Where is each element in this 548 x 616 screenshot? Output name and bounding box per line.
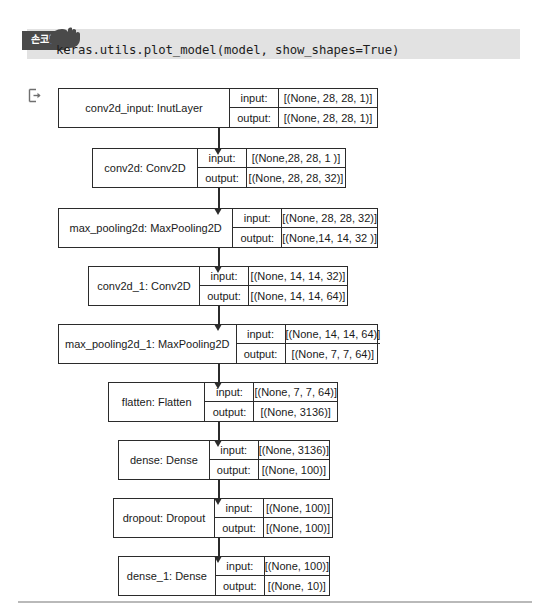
layer-io-row: output:[(None, 10)]	[216, 576, 329, 595]
layer-io-row: input:[(None, 100)]	[216, 557, 329, 576]
connector-line	[218, 188, 220, 208]
layer-io-row: output:[(None, 14, 14, 64)]	[200, 286, 347, 305]
connector-arrowhead	[214, 208, 222, 215]
layer-io-row: input:[(None, 7, 7, 64)]	[205, 383, 337, 402]
model-architecture-diagram: conv2d_input: InutLayerinput:[(None, 28,…	[0, 0, 548, 616]
layer-io-key: output:	[216, 576, 264, 595]
layer-io-shape: [(None, 10)]	[264, 576, 329, 595]
layer-io-shape: [(None, 3136)]	[253, 402, 337, 421]
layer-io-row: output:[(None,14, 14, 32 )]	[233, 228, 377, 247]
layer-node-name: conv2d_1: Conv2D	[89, 267, 199, 305]
layer-io-shape: [(None, 100)]	[263, 499, 332, 517]
layer-io-key: input:	[233, 209, 281, 227]
layer-io-shape: [(None, 28, 28, 32)]	[281, 209, 377, 227]
connector-arrowhead	[214, 324, 222, 331]
layer-io-table: input:[(None, 28, 28, 1)]output:[(None, …	[229, 89, 377, 127]
layer-node-name: conv2d: Conv2D	[93, 149, 197, 187]
layer-io-table: input:[(None, 7, 7, 64)]output:[(None, 3…	[204, 383, 337, 421]
layer-node-name: dropout: Dropout	[114, 499, 214, 537]
connector-arrowhead	[214, 266, 222, 273]
layer-io-shape: [(None,28, 28, 1 )]	[246, 149, 345, 167]
layer-io-shape: [(None, 14, 14, 64)]	[248, 286, 347, 305]
layer-io-key: input:	[230, 89, 278, 107]
connector-arrowhead	[214, 382, 222, 389]
layer-io-row: input:[(None, 14, 14, 64)]	[237, 325, 381, 344]
layer-io-row: output:[(None, 28, 28, 32)]	[198, 168, 345, 187]
layer-node-name: conv2d_input: InutLayer	[59, 89, 229, 127]
layer-io-table: input:[(None, 100)]output:[(None, 10)]	[215, 557, 329, 595]
layer-io-shape: [(None, 3136)]	[258, 441, 329, 459]
layer-io-key: output:	[200, 286, 248, 305]
layer-io-shape: [(None, 100)]	[264, 557, 329, 575]
layer-io-table: input:[(None, 3136)]output:[(None, 100)]	[209, 441, 329, 479]
layer-io-shape: [(None, 100)]	[263, 518, 332, 537]
connector-line	[218, 128, 220, 148]
layer-node-name: dense_1: Dense	[119, 557, 215, 595]
layer-io-table: input:[(None, 28, 28, 32)]output:[(None,…	[232, 209, 377, 247]
layer-io-key: output:	[198, 168, 246, 187]
layer-io-key: output:	[230, 108, 278, 127]
connector-line	[218, 538, 220, 556]
layer-io-row: input:[(None, 28, 28, 32)]	[233, 209, 377, 228]
layer-io-row: output:[(None, 7, 7, 64)]	[237, 344, 381, 363]
layer-io-key: input:	[216, 557, 264, 575]
layer-io-shape: [(None, 28, 28, 1)]	[278, 108, 377, 127]
layer-io-shape: [(None, 100)]	[258, 460, 329, 479]
connector-line	[218, 364, 220, 382]
layer-io-key: input:	[237, 325, 285, 343]
layer-io-key: output:	[233, 228, 281, 247]
connector-arrowhead	[214, 440, 222, 447]
layer-node: dense_1: Denseinput:[(None, 100)]output:…	[118, 556, 330, 596]
layer-io-key: output:	[215, 518, 263, 537]
connector-arrowhead	[214, 556, 222, 563]
layer-node-name: max_pooling2d_1: MaxPooling2D	[59, 325, 236, 363]
layer-io-row: input:[(None, 28, 28, 1)]	[230, 89, 377, 108]
layer-node: flatten: Flatteninput:[(None, 7, 7, 64)]…	[108, 382, 338, 422]
layer-io-row: output:[(None, 100)]	[215, 518, 332, 537]
connector-line	[218, 480, 220, 498]
layer-io-key: output:	[237, 344, 285, 363]
layer-node-name: dense: Dense	[119, 441, 209, 479]
connector-line	[218, 306, 220, 324]
layer-io-key: output:	[205, 402, 253, 421]
connector-line	[218, 248, 220, 266]
layer-io-table: input:[(None, 14, 14, 64)]output:[(None,…	[236, 325, 381, 363]
layer-io-table: input:[(None, 100)]output:[(None, 100)]	[214, 499, 332, 537]
layer-io-key: input:	[205, 383, 253, 401]
layer-io-key: output:	[210, 460, 258, 479]
layer-io-shape: [(None, 14, 14, 64)]	[285, 325, 381, 343]
layer-io-shape: [(None, 28, 28, 1)]	[278, 89, 377, 107]
layer-io-row: input:[(None, 100)]	[215, 499, 332, 518]
layer-io-shape: [(None, 14, 14, 32)]	[248, 267, 347, 285]
layer-io-shape: [(None, 7, 7, 64)]	[253, 383, 337, 401]
layer-node: conv2d_input: InutLayerinput:[(None, 28,…	[58, 88, 378, 128]
layer-io-shape: [(None,14, 14, 32 )]	[281, 228, 377, 247]
connector-arrowhead	[214, 498, 222, 505]
layer-node: dense: Denseinput:[(None, 3136)]output:[…	[118, 440, 330, 480]
connector-arrowhead	[214, 148, 222, 155]
layer-io-key: input:	[200, 267, 248, 285]
layer-io-row: output:[(None, 100)]	[210, 460, 329, 479]
layer-io-shape: [(None, 7, 7, 64)]	[285, 344, 381, 363]
layer-io-row: input:[(None, 3136)]	[210, 441, 329, 460]
connector-line	[218, 422, 220, 440]
layer-node-name: flatten: Flatten	[109, 383, 204, 421]
layer-io-row: output:[(None, 3136)]	[205, 402, 337, 421]
layer-node-name: max_pooling2d: MaxPooling2D	[59, 209, 232, 247]
page-divider	[18, 601, 532, 603]
layer-io-shape: [(None, 28, 28, 32)]	[246, 168, 345, 187]
layer-io-row: output:[(None, 28, 28, 1)]	[230, 108, 377, 127]
layer-node: dropout: Dropoutinput:[(None, 100)]outpu…	[113, 498, 333, 538]
